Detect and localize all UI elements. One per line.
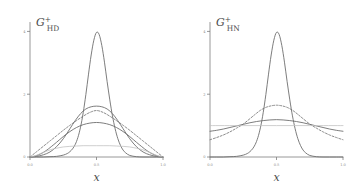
y-axis-title: G+HN	[216, 15, 240, 33]
plot-right: 0.00.51.0024G+HNx	[180, 0, 361, 190]
y-tick: 4	[23, 30, 30, 34]
curve-medium-peak	[210, 105, 343, 140]
axes	[210, 22, 343, 157]
x-tick-label: 1.0	[160, 163, 166, 167]
svg-text:G+HN: G+HN	[216, 15, 240, 33]
x-tick: 1.0	[160, 157, 166, 167]
curve-narrow-peak	[30, 32, 163, 157]
x-tick-label: 0.0	[27, 163, 33, 167]
curve-narrow-peak	[210, 32, 343, 157]
y-tick-label: 4	[203, 30, 206, 34]
x-axis-title: x	[273, 171, 280, 184]
y-tick-label: 2	[203, 93, 205, 97]
figure-container: 0.00.51.0024G+HDx 0.00.51.0024G+HNx	[0, 0, 361, 190]
x-axis-title: x	[93, 171, 100, 184]
x-tick: 0.5	[94, 157, 100, 167]
plot-left: 0.00.51.0024G+HDx	[0, 0, 181, 190]
x-tick: 0.0	[27, 157, 33, 167]
x-tick-label: 0.5	[274, 163, 280, 167]
axes	[30, 22, 163, 157]
y-axis-title: G+HD	[36, 15, 59, 33]
x-tick: 1.0	[340, 157, 346, 167]
x-tick-label: 0.5	[94, 163, 100, 167]
x-tick-label: 0.0	[207, 163, 213, 167]
chart-panel-right: 0.00.51.0024G+HNx	[180, 0, 361, 190]
y-tick-label: 2	[23, 93, 25, 97]
y-tick-label: 0	[23, 155, 26, 159]
chart-panel-left: 0.00.51.0024G+HDx	[0, 0, 181, 190]
y-tick: 2	[23, 93, 30, 97]
y-tick: 0	[23, 155, 30, 159]
curve-medium-peak	[30, 106, 163, 157]
x-tick-label: 1.0	[340, 163, 346, 167]
y-tick-label: 4	[23, 30, 26, 34]
y-tick: 4	[203, 30, 210, 34]
y-tick: 2	[203, 93, 210, 97]
x-tick: 0.0	[207, 157, 213, 167]
y-tick: 0	[203, 155, 210, 159]
x-tick: 0.5	[274, 157, 280, 167]
y-tick-label: 0	[203, 155, 206, 159]
svg-text:G+HD: G+HD	[36, 15, 59, 33]
